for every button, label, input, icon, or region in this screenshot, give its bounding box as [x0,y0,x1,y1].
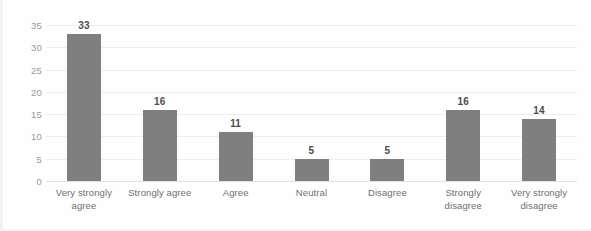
bar-slot: 5 [349,25,425,181]
y-tick-label: 35 [2,20,42,31]
bar-chart: 35302520151050 331611551614 Very strongl… [0,0,591,231]
x-axis: Very strongly agreeStrongly agreeAgreeNe… [46,186,577,230]
x-category-label: Very strongly disagree [501,186,577,230]
bar-value-label: 16 [154,96,166,107]
bar-value-label: 14 [533,105,545,116]
y-tick-label: 25 [2,64,42,75]
bar-slot: 16 [425,25,501,181]
x-category-label: Neutral [274,186,350,230]
bar[interactable]: 14 [522,119,556,181]
x-category-label: Very strongly agree [46,186,122,230]
y-tick-label: 0 [2,176,42,187]
y-tick-label: 15 [2,109,42,120]
x-category-label: Agree [198,186,274,230]
bar-slot: 5 [274,25,350,181]
y-tick-label: 20 [2,86,42,97]
bar-value-label: 5 [309,145,315,156]
gridline-0 [46,181,577,182]
x-category-label: Strongly disagree [425,186,501,230]
bar-slot: 11 [198,25,274,181]
y-tick-label: 5 [2,153,42,164]
y-tick-label: 10 [2,131,42,142]
bar-value-label: 5 [384,145,390,156]
bar-value-label: 33 [78,20,90,31]
bar[interactable]: 16 [143,110,177,181]
bar-value-label: 16 [457,96,469,107]
bar-value-label: 11 [230,118,241,129]
bar[interactable]: 11 [219,132,253,181]
bar[interactable]: 16 [446,110,480,181]
x-category-label: Disagree [349,186,425,230]
x-category-label: Strongly agree [122,186,198,230]
y-axis: 35302520151050 [0,25,42,181]
bar-series: 331611551614 [46,25,577,181]
y-tick-label: 30 [2,42,42,53]
bar-slot: 14 [501,25,577,181]
bar[interactable]: 5 [370,159,404,181]
bar-slot: 16 [122,25,198,181]
bar[interactable]: 5 [295,159,329,181]
bar-slot: 33 [46,25,122,181]
bar[interactable]: 33 [67,34,101,181]
